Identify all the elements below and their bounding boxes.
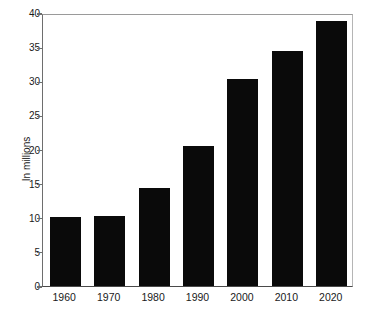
x-axis-tick-labels: 1960197019801990200020102020 [42, 291, 353, 307]
bar [94, 216, 125, 286]
x-tick-label: 1970 [97, 291, 120, 304]
x-tick-label: 2010 [275, 291, 298, 304]
bar [183, 146, 214, 286]
plot-area [42, 14, 353, 287]
bar [227, 79, 258, 286]
y-tick-mark [37, 82, 42, 83]
y-tick-mark [37, 116, 42, 117]
x-tick-label: 2000 [230, 291, 253, 304]
bars-layer [43, 15, 352, 286]
bar [316, 21, 347, 286]
bar [272, 51, 303, 286]
x-tick-label: 1990 [186, 291, 209, 304]
y-tick-mark [37, 13, 42, 14]
y-tick-mark [37, 286, 42, 287]
y-tick-mark [37, 48, 42, 49]
x-tick-label: 2020 [319, 291, 342, 304]
y-tick-mark [37, 218, 42, 219]
y-tick-mark [37, 184, 42, 185]
bar [139, 188, 170, 286]
y-tick-mark [37, 252, 42, 253]
x-tick-label: 1960 [53, 291, 76, 304]
y-tick-mark [37, 150, 42, 151]
bar [50, 217, 81, 286]
x-tick-label: 1980 [141, 291, 164, 304]
bar-chart: In millions 0510152025303540 19601970198… [0, 0, 367, 318]
